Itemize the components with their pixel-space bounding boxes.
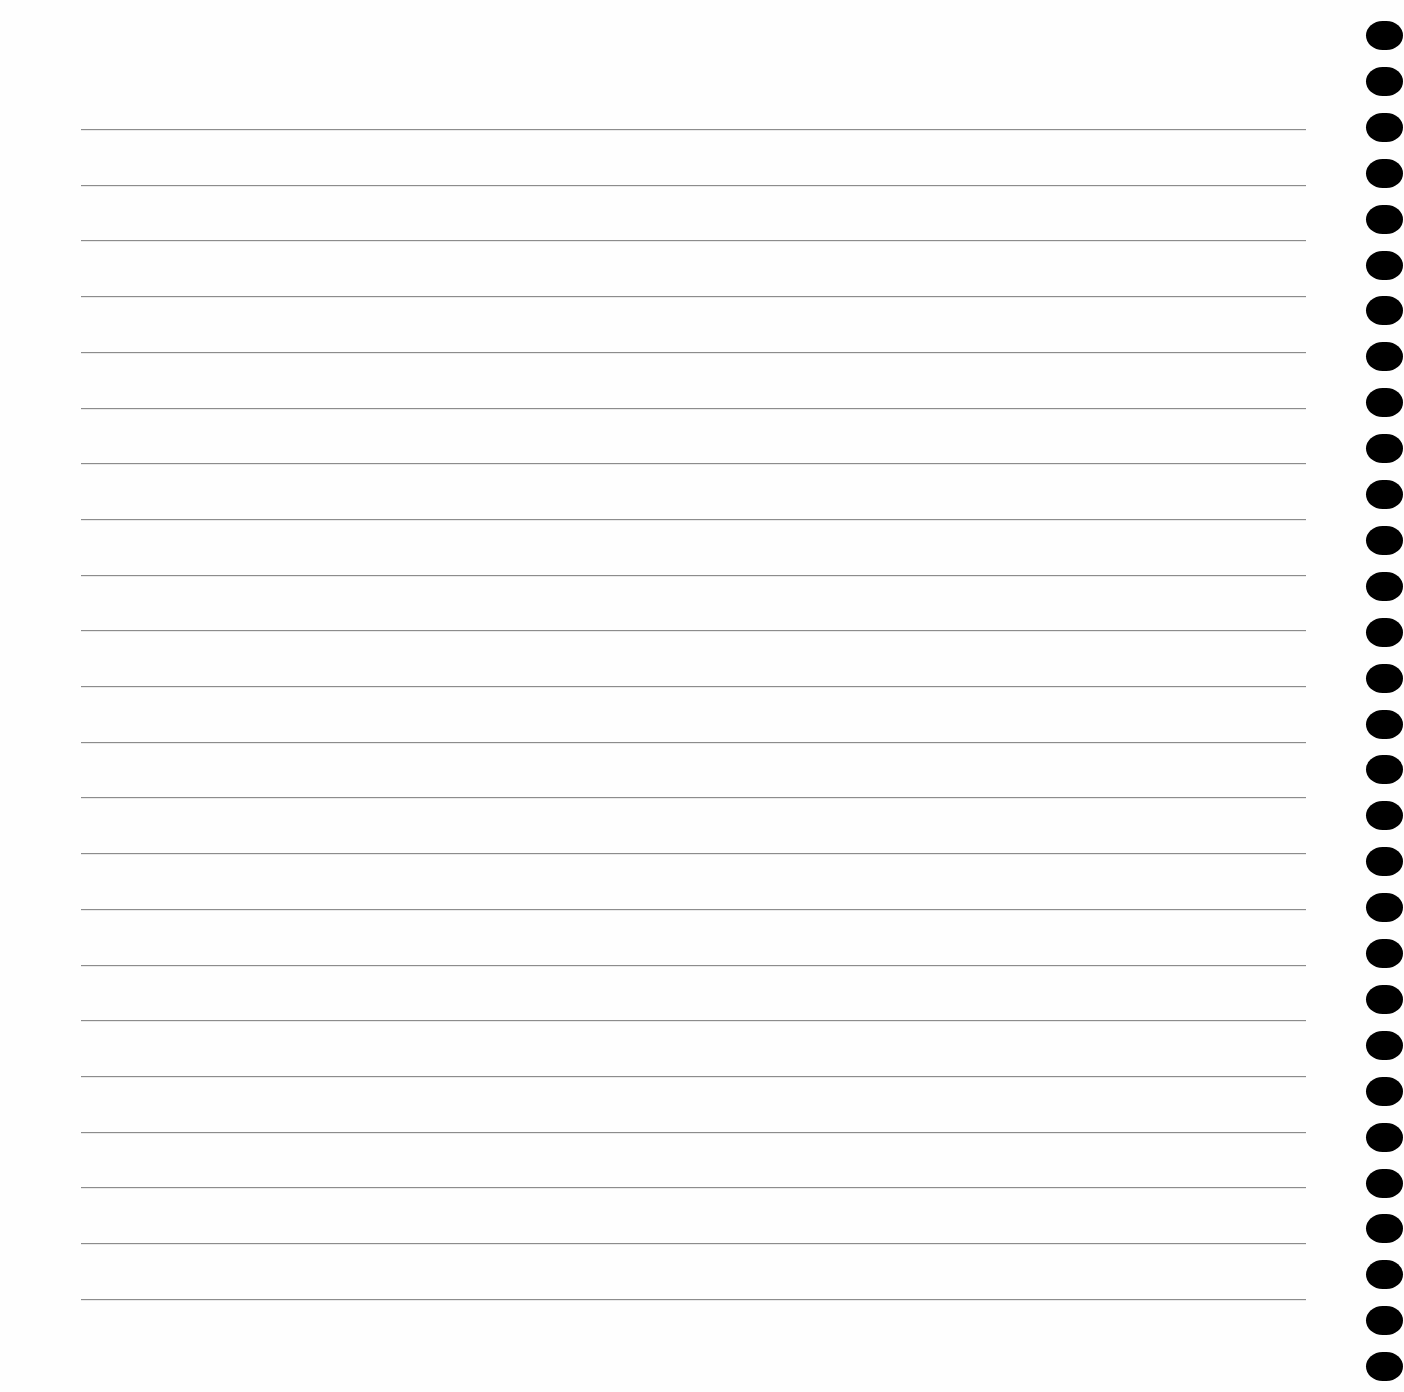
binding-hole [1366, 526, 1403, 555]
binding-hole [1366, 21, 1403, 50]
ruled-line [81, 463, 1306, 464]
ruled-line [81, 408, 1306, 409]
ruled-line [81, 909, 1306, 910]
binding-hole [1366, 985, 1403, 1014]
binding-hole [1366, 1031, 1403, 1060]
ruled-line [81, 1076, 1306, 1077]
ruled-line [81, 1132, 1306, 1133]
binding-hole [1366, 1352, 1403, 1381]
binding-hole [1366, 434, 1403, 463]
binding-hole [1366, 939, 1403, 968]
binding-hole [1366, 296, 1403, 325]
ruled-line [81, 240, 1306, 241]
binding-hole [1366, 205, 1403, 234]
binding-hole [1366, 1306, 1403, 1335]
ruled-line [81, 129, 1306, 130]
ruled-line [81, 1243, 1306, 1244]
ruled-line [81, 296, 1306, 297]
ruled-line [81, 519, 1306, 520]
ruled-line [81, 352, 1306, 353]
notebook-page [0, 0, 1404, 1392]
ruled-line [81, 965, 1306, 966]
ruled-line [81, 853, 1306, 854]
binding-hole [1366, 755, 1403, 784]
binding-hole [1366, 251, 1403, 280]
binding-hole [1366, 1123, 1403, 1152]
ruled-line [81, 575, 1306, 576]
binding-hole [1366, 572, 1403, 601]
ruled-line [81, 686, 1306, 687]
ruled-line [81, 1299, 1306, 1300]
binding-hole [1366, 1077, 1403, 1106]
binding-hole [1366, 618, 1403, 647]
binding-hole [1366, 710, 1403, 739]
binding-hole [1366, 893, 1403, 922]
binding-hole [1366, 1169, 1403, 1198]
binding-hole [1366, 847, 1403, 876]
ruled-line [81, 797, 1306, 798]
ruled-line [81, 742, 1306, 743]
ruled-line [81, 185, 1306, 186]
binding-hole [1366, 113, 1403, 142]
binding-hole [1366, 480, 1403, 509]
binding-hole [1366, 388, 1403, 417]
binding-hole [1366, 801, 1403, 830]
binding-hole [1366, 1260, 1403, 1289]
binding-hole [1366, 342, 1403, 371]
binding-hole [1366, 1214, 1403, 1243]
ruled-line [81, 1187, 1306, 1188]
binding-hole [1366, 67, 1403, 96]
binding-hole [1366, 664, 1403, 693]
ruled-line [81, 630, 1306, 631]
binding-hole [1366, 159, 1403, 188]
ruled-line [81, 1020, 1306, 1021]
